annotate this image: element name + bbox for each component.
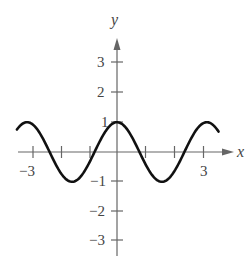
y-tick-label-neg2: −2: [89, 203, 105, 219]
y-tick-label-neg3: −3: [89, 232, 105, 248]
x-axis-label: x: [236, 143, 244, 160]
y-axis-arrow-icon: [114, 38, 121, 50]
y-axis-label: y: [109, 11, 119, 29]
x-tick-label-neg3: −3: [19, 163, 35, 179]
y-tick-label-1: 1: [101, 114, 109, 130]
y-tick-label-3: 3: [97, 54, 105, 70]
x-axis-arrow-icon: [222, 149, 234, 156]
cosine-graph: x y −3 3 3 2 1 −1 −2 −3: [0, 0, 252, 257]
y-tick-label-neg1: −1: [90, 173, 106, 189]
y-tick-label-2: 2: [97, 84, 105, 100]
x-tick-label-3: 3: [200, 163, 208, 179]
